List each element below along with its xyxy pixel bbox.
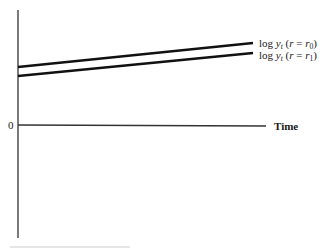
x-axis-label: Time — [274, 120, 298, 132]
series-label-r1: log yt (r = r1) — [259, 49, 317, 63]
chart-canvas: 0 Time log yt (r = r0) log yt (r = r1) — [0, 0, 325, 249]
x-axis — [18, 125, 266, 126]
y-zero-label: 0 — [8, 119, 14, 131]
